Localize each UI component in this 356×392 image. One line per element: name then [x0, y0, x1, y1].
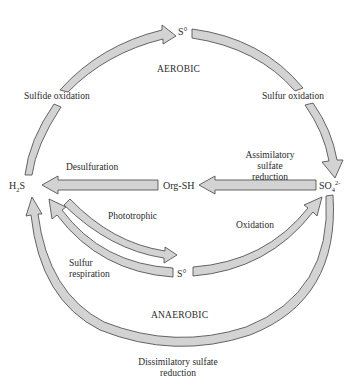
so4-sup: 2-	[335, 179, 340, 186]
compound-s0-middle: S°	[177, 268, 187, 279]
so4-sub: 4	[332, 186, 335, 193]
region-aerobic: AEROBIC	[157, 64, 200, 75]
compound-so4: SO42-	[319, 180, 340, 191]
h2s-tail: S	[19, 180, 25, 191]
assimilatory-line-2: sulfate	[230, 161, 310, 172]
org-sh-text: Org-SH	[163, 180, 194, 191]
so4-main: SO	[319, 180, 332, 191]
s0-top-text: S°	[178, 26, 188, 37]
compound-h2s: H2S	[9, 180, 25, 191]
label-assimilatory-sulfate-reduction: Assimilatory sulfate reduction	[230, 150, 310, 183]
label-sulfur-respiration: Sulfur respiration	[69, 258, 110, 280]
sulfur-cycle-diagram: S° H2S SO42- Org-SH S° AEROBIC ANAEROBIC…	[0, 0, 356, 392]
arrow-sulfide-oxidation-lower	[25, 104, 61, 175]
assimilatory-line-1: Assimilatory	[230, 150, 310, 161]
arrow-desulfuration	[42, 176, 158, 194]
compound-s0-top: S°	[178, 26, 188, 37]
label-desulfuration: Desulfuration	[66, 162, 118, 173]
sulfur-respiration-line-1: Sulfur	[69, 258, 110, 269]
region-anaerobic: ANAEROBIC	[151, 310, 208, 321]
arrow-sulfur-oxidation-lower	[305, 103, 343, 178]
s0-middle-text: S°	[177, 268, 187, 279]
label-dissimilatory-sulfate-reduction: Dissimilatory sulfate reduction	[118, 357, 238, 379]
dissimilatory-line-2: reduction	[118, 368, 238, 379]
dissimilatory-line-1: Dissimilatory sulfate	[118, 357, 238, 368]
label-sulfur-oxidation: Sulfur oxidation	[262, 91, 324, 102]
arrow-sulfur-oxidation	[192, 29, 303, 91]
label-phototrophic: Phototrophic	[108, 211, 157, 222]
arrow-sulfide-oxidation	[60, 25, 176, 92]
assimilatory-line-3: reduction	[230, 172, 310, 183]
compound-org-sh: Org-SH	[163, 180, 194, 191]
label-sulfide-oxidation: Sulfide oxidation	[24, 91, 90, 102]
label-oxidation: Oxidation	[236, 220, 274, 231]
sulfur-respiration-line-2: respiration	[69, 269, 110, 280]
arrow-oxidation	[193, 197, 322, 276]
arrows-layer	[0, 0, 356, 392]
